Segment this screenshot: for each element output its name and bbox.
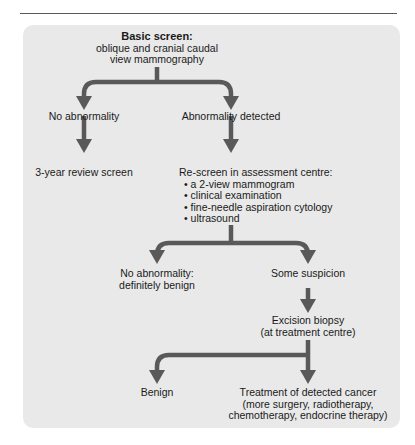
- edge-mid-right: [231, 243, 308, 255]
- rescreen-item: ultrasound: [184, 213, 349, 225]
- node-review-screen: 3-year review screen: [34, 167, 134, 179]
- arrowhead-icon: [76, 139, 92, 153]
- node-some-suspicion: Some suspicion: [263, 268, 353, 280]
- arrowhead-icon: [300, 299, 316, 313]
- edge-split-left: [84, 82, 157, 97]
- arrowhead-icon: [300, 250, 316, 264]
- rescreen-title: Re-screen in assessment centre:: [179, 167, 349, 179]
- treatment-line1: Treatment of detected cancer: [223, 387, 393, 399]
- node-rescreen: Re-screen in assessment centre: a 2-view…: [179, 167, 349, 225]
- node-definitely-benign: No abnormality: definitely benign: [112, 268, 202, 291]
- rescreen-item: clinical examination: [184, 190, 349, 202]
- definitely-benign-line1: No abnormality:: [112, 268, 202, 280]
- rescreen-items: a 2-view mammogram clinical examination …: [184, 179, 349, 225]
- excision-biopsy-line1: Excision biopsy: [253, 315, 363, 327]
- excision-biopsy-line2: (at treatment centre): [253, 327, 363, 339]
- arrowhead-icon: [300, 370, 316, 384]
- arrowhead-icon: [149, 250, 165, 264]
- node-benign: Benign: [132, 387, 182, 399]
- arrowheads: [76, 96, 316, 384]
- definitely-benign-line2: definitely benign: [112, 280, 202, 292]
- basic-screen-line2: view mammography: [87, 54, 227, 66]
- arrowhead-icon: [149, 370, 165, 384]
- node-no-abnormality: No abnormality: [44, 111, 124, 123]
- edge-mid-left: [157, 243, 231, 255]
- arrowhead-icon: [223, 139, 239, 153]
- treatment-line3: chemotherapy, endocrine therapy): [223, 410, 393, 422]
- arrowhead-icon: [223, 96, 239, 110]
- edge-split-right: [157, 82, 231, 97]
- edge-biopsy-to-benign: [157, 355, 308, 372]
- node-treatment: Treatment of detected cancer (more surge…: [223, 387, 393, 422]
- node-excision-biopsy: Excision biopsy (at treatment centre): [253, 315, 363, 338]
- node-abnormality-detected: Abnormality detected: [176, 111, 286, 123]
- arrowhead-icon: [76, 96, 92, 110]
- node-basic-screen: Basic screen: oblique and cranial caudal…: [87, 31, 227, 66]
- basic-screen-title: Basic screen:: [87, 31, 227, 43]
